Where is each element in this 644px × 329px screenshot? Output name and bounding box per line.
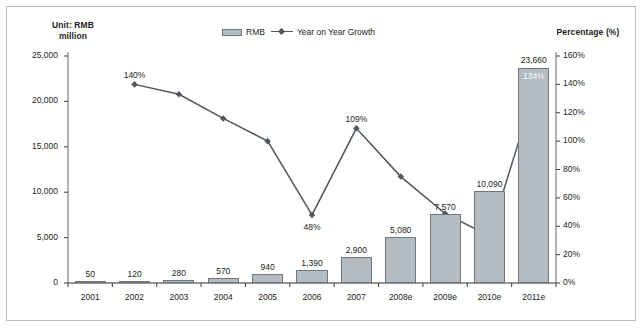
left-axis-tick: 5,000 (12, 232, 58, 242)
bar-value-label: 23,660 (512, 55, 556, 65)
bar-2001[interactable] (75, 281, 106, 283)
category-label: 2006 (290, 292, 334, 302)
growth-point-label: 109% (334, 114, 378, 124)
bar-value-label: 280 (157, 268, 201, 278)
bar-value-label: 940 (245, 262, 289, 272)
category-label: 2003 (157, 292, 201, 302)
category-label: 2009e (423, 292, 467, 302)
right-axis-tick: 120% (563, 107, 609, 117)
category-label: 2011e (512, 292, 556, 302)
bar-2010e[interactable] (474, 191, 505, 283)
category-label: 2008e (379, 292, 423, 302)
category-label: 2001 (68, 292, 112, 302)
growth-point-label: 140% (112, 70, 156, 80)
right-axis-tick: 60% (563, 192, 609, 202)
bar-value-label: 120 (112, 269, 156, 279)
bar-value-label: 10,090 (467, 179, 511, 189)
bar-value-label: 7,570 (423, 202, 467, 212)
left-axis-tick: 15,000 (12, 141, 58, 151)
bar-2005[interactable] (252, 274, 283, 283)
bar-2003[interactable] (163, 280, 194, 283)
chart-canvas: Unit: RMB million Percentage (%) RMB Yea… (0, 0, 644, 329)
left-axis-tick: 25,000 (12, 50, 58, 60)
right-axis-tick: 20% (563, 249, 609, 259)
bar-2007[interactable] (341, 257, 372, 283)
bar-2011e[interactable] (518, 68, 549, 283)
category-label: 2004 (201, 292, 245, 302)
right-axis-tick: 80% (563, 164, 609, 174)
left-axis-tick: 10,000 (12, 186, 58, 196)
bar-value-label: 5,080 (379, 225, 423, 235)
bar-2009e[interactable] (430, 214, 461, 283)
category-label: 2005 (245, 292, 289, 302)
bar-value-label: 50 (68, 269, 112, 279)
right-axis-tick: 0% (563, 277, 609, 287)
bar-2002[interactable] (119, 281, 150, 283)
right-axis-tick: 100% (563, 135, 609, 145)
growth-point-label: 134% (512, 71, 556, 81)
category-label: 2010e (467, 292, 511, 302)
right-axis-tick: 40% (563, 220, 609, 230)
bar-value-label: 2,900 (334, 245, 378, 255)
category-label: 2002 (112, 292, 156, 302)
right-axis-tick: 160% (563, 50, 609, 60)
right-axis-tick: 140% (563, 78, 609, 88)
category-label: 2007 (334, 292, 378, 302)
bar-value-label: 1,390 (290, 258, 334, 268)
bar-value-label: 570 (201, 266, 245, 276)
bar-2004[interactable] (208, 278, 239, 283)
bar-2008e[interactable] (385, 237, 416, 283)
left-axis-tick: 20,000 (12, 95, 58, 105)
left-axis-tick: 0 (12, 277, 58, 287)
growth-point-label: 48% (290, 222, 334, 232)
bar-2006[interactable] (296, 270, 327, 283)
